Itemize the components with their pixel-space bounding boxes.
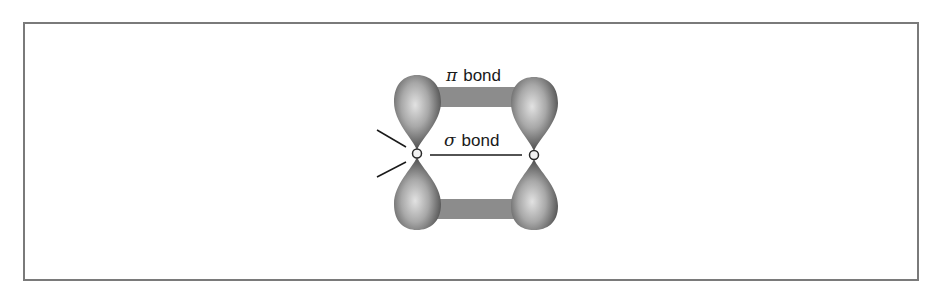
pi-bond-bar-bottom bbox=[432, 199, 520, 219]
sigma-symbol: σ bbox=[444, 130, 456, 150]
right-p-orbital bbox=[511, 77, 558, 230]
substituent-line-lower bbox=[377, 162, 406, 177]
pi-bond-bar-top bbox=[432, 87, 520, 107]
left-bottom-lobe bbox=[394, 157, 441, 230]
left-nucleus bbox=[413, 149, 422, 158]
sigma-bond-text: bond bbox=[462, 131, 500, 150]
pi-bond-label: πbond bbox=[446, 67, 501, 84]
left-p-orbital bbox=[394, 75, 441, 230]
substituent-line-upper bbox=[377, 130, 406, 147]
right-nucleus bbox=[530, 151, 539, 160]
pi-symbol: π bbox=[446, 65, 457, 85]
right-bottom-lobe bbox=[511, 159, 558, 230]
pi-bond-text: bond bbox=[463, 66, 501, 85]
right-top-lobe bbox=[511, 77, 558, 151]
left-top-lobe bbox=[394, 75, 441, 150]
sigma-bond-label: σbond bbox=[444, 132, 499, 149]
